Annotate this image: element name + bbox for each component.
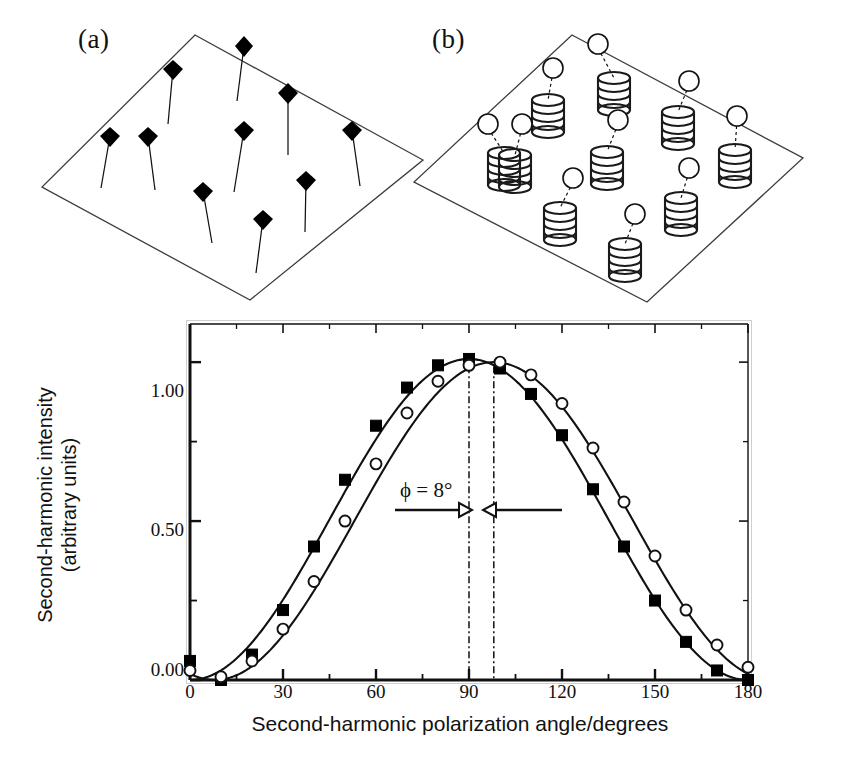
schematic-panels: (a) (b) (0, 0, 846, 320)
plot-outer-box (186, 320, 752, 684)
x-tick-label-120: 120 (539, 681, 585, 703)
panels-svg (0, 0, 846, 320)
x-tick-label-60: 60 (353, 681, 399, 703)
y-axis-title-line2: (arbitrary units) (58, 355, 82, 655)
x-tick-label-90: 90 (446, 681, 492, 703)
x-tick-label-0: 0 (167, 681, 213, 703)
panel-a-plane (42, 35, 423, 300)
phase-shift-label: ϕ = 8° (400, 478, 452, 503)
panel-b-group (414, 34, 803, 302)
x-tick-label-180: 180 (725, 681, 771, 703)
y-tick-label-0-50: 0.50 (128, 519, 184, 541)
x-tick-label-150: 150 (632, 681, 678, 703)
y-tick-label-1-00: 1.00 (128, 380, 184, 402)
y-axis-title: Second-harmonic intensity (arbitrary uni… (34, 355, 81, 655)
y-tick-label-0-00: 0.00 (128, 659, 184, 681)
figure-root: (a) (b) (0, 0, 846, 777)
panel-a-group (42, 35, 423, 300)
x-axis-title: Second-harmonic polarization angle/degre… (150, 712, 770, 736)
y-axis-title-line1: Second-harmonic intensity (34, 355, 58, 655)
x-tick-label-30: 30 (260, 681, 306, 703)
